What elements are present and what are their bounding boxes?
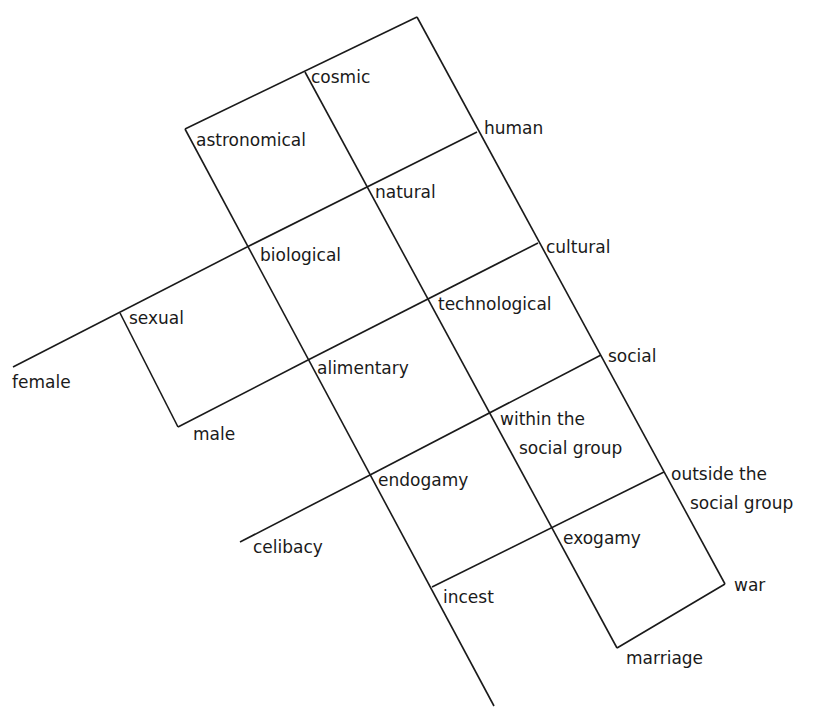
line-sexual-to-male bbox=[120, 313, 178, 427]
label-alimentary: alimentary bbox=[317, 357, 409, 379]
label-technological: technological bbox=[438, 293, 552, 315]
label-female: female bbox=[12, 371, 71, 393]
label-outside-line2: social group bbox=[690, 492, 793, 514]
label-within-line2: social group bbox=[519, 437, 622, 459]
label-sexual: sexual bbox=[129, 307, 184, 329]
label-war: war bbox=[734, 574, 765, 596]
label-incest: incest bbox=[443, 586, 494, 608]
label-cultural: cultural bbox=[546, 236, 610, 258]
label-social: social bbox=[608, 345, 656, 367]
line-marriage-war bbox=[617, 584, 725, 648]
label-cosmic: cosmic bbox=[311, 66, 370, 88]
label-outside-line1: outside the bbox=[671, 463, 767, 485]
line-male-alimentary bbox=[178, 360, 308, 427]
label-male: male bbox=[193, 423, 235, 445]
label-marriage: marriage bbox=[626, 647, 703, 669]
label-human: human bbox=[484, 117, 543, 139]
line-celibacy-endogamy bbox=[240, 475, 370, 542]
line-astronomical-top bbox=[185, 17, 417, 129]
label-within-line1: within the bbox=[500, 408, 585, 430]
label-exogamy: exogamy bbox=[563, 527, 641, 549]
label-natural: natural bbox=[375, 181, 436, 203]
line-astronomical-to-bottom bbox=[185, 129, 494, 706]
label-astronomical: astronomical bbox=[196, 129, 306, 151]
label-celibacy: celibacy bbox=[253, 536, 323, 558]
label-endogamy: endogamy bbox=[378, 469, 468, 491]
label-biological: biological bbox=[260, 244, 341, 266]
